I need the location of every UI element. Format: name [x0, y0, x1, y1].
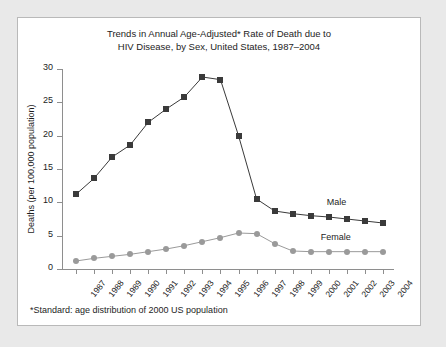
chart-footnote: *Standard: age distribution of 2000 US p… — [30, 305, 228, 315]
y-tick-label-15: 15 — [43, 162, 53, 172]
x-tick-label-1999: 1999 — [305, 278, 325, 299]
marker-female-1998 — [272, 241, 278, 247]
marker-male-1991 — [145, 119, 151, 125]
marker-female-2001 — [326, 249, 332, 255]
y-tick-label-10: 10 — [43, 195, 53, 205]
x-tick-label-1996: 1996 — [251, 278, 271, 299]
y-tick-label-0: 0 — [48, 262, 53, 272]
y-axis-label: Deaths (per 100,000 population) — [26, 69, 40, 269]
chart-title-line-1: Trends in Annual Age-Adjusted* Rate of D… — [18, 27, 420, 40]
x-tick-label-1993: 1993 — [197, 278, 217, 299]
marker-male-1989 — [109, 154, 115, 160]
marker-female-1997 — [254, 231, 260, 237]
y-tick-label-5: 5 — [48, 229, 53, 239]
chart-title: Trends in Annual Age-Adjusted* Rate of D… — [18, 27, 420, 53]
marker-male-1990 — [127, 142, 133, 148]
marker-male-1999 — [290, 211, 296, 217]
x-tick-label-1997: 1997 — [269, 278, 289, 299]
y-tick-label-30: 30 — [43, 62, 53, 72]
x-tick-label-2002: 2002 — [359, 278, 379, 299]
marker-female-2004 — [380, 249, 386, 255]
x-tick-label-2001: 2001 — [341, 278, 361, 299]
y-tick-label-25: 25 — [43, 95, 53, 105]
marker-female-1987 — [73, 258, 79, 264]
x-tick-label-1989: 1989 — [124, 278, 144, 299]
marker-female-2000 — [308, 249, 314, 255]
marker-female-1999 — [290, 248, 296, 254]
x-tick-label-1987: 1987 — [88, 278, 108, 299]
marker-male-1994 — [199, 74, 205, 80]
marker-male-2003 — [362, 218, 368, 224]
x-tick-label-2003: 2003 — [377, 278, 397, 299]
marker-female-1991 — [145, 249, 151, 255]
marker-female-2003 — [362, 249, 368, 255]
marker-male-1996 — [236, 133, 242, 139]
marker-male-1997 — [254, 196, 260, 202]
marker-male-2001 — [326, 214, 332, 220]
marker-male-1988 — [91, 175, 97, 181]
marker-male-1987 — [73, 191, 79, 197]
x-tick-label-2000: 2000 — [323, 278, 343, 299]
marker-male-1995 — [217, 77, 223, 83]
chart-title-line-2: HIV Disease, by Sex, United States, 1987… — [18, 40, 420, 53]
y-tick-label-20: 20 — [43, 129, 53, 139]
marker-male-2002 — [344, 216, 350, 222]
x-tick-label-1998: 1998 — [287, 278, 307, 299]
series-label-female: Female — [321, 232, 351, 242]
series-label-male: Male — [327, 197, 347, 207]
marker-male-1998 — [272, 208, 278, 214]
marker-female-1996 — [236, 230, 242, 236]
plot-area: Deaths (per 100,000 population) 05101520… — [62, 69, 393, 269]
chart-figure: Trends in Annual Age-Adjusted* Rate of D… — [17, 17, 421, 326]
x-tick-label-1990: 1990 — [142, 278, 162, 299]
x-tick-label-2004: 2004 — [395, 278, 415, 299]
marker-male-2004 — [380, 220, 386, 226]
x-tick-label-1992: 1992 — [179, 278, 199, 299]
x-tick-label-1994: 1994 — [215, 278, 235, 299]
x-tick-label-1991: 1991 — [161, 278, 181, 299]
marker-male-2000 — [308, 213, 314, 219]
x-tick-label-1995: 1995 — [233, 278, 253, 299]
marker-female-2002 — [344, 249, 350, 255]
x-tick-label-1988: 1988 — [106, 278, 126, 299]
marker-male-1993 — [181, 94, 187, 100]
marker-male-1992 — [163, 106, 169, 112]
